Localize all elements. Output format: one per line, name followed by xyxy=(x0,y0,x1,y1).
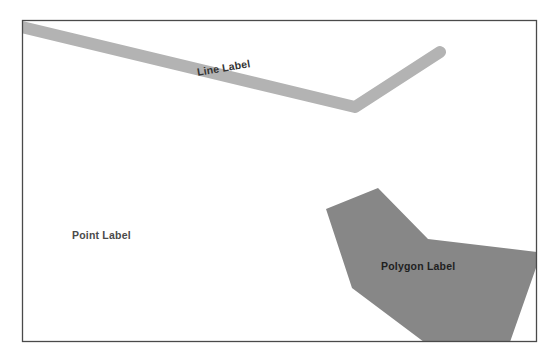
map-canvas: Line Label Point Label Polygon Label xyxy=(0,0,560,362)
map-graphics xyxy=(0,0,560,362)
point-feature-label: Point Label xyxy=(72,229,131,241)
polygon-feature-label: Polygon Label xyxy=(381,260,455,272)
